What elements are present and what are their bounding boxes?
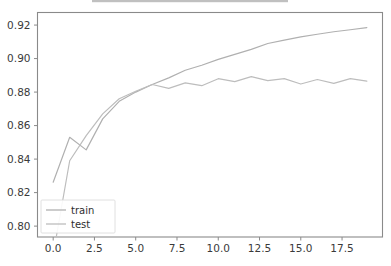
chart-canvas: 0.800.820.840.860.880.900.92 0.02.55.07.… bbox=[0, 0, 391, 266]
y-tick-label: 0.92 bbox=[7, 19, 30, 31]
figure-title-clipped bbox=[92, 0, 288, 2]
x-tick-label: 15.0 bbox=[289, 242, 312, 254]
x-tick-label: 17.5 bbox=[330, 242, 353, 254]
title-text-fragment bbox=[92, 0, 288, 2]
x-tick-label: 2.5 bbox=[86, 242, 103, 254]
x-tick-label: 10.0 bbox=[207, 242, 230, 254]
legend-label-test: test bbox=[71, 219, 90, 230]
x-tick-label: 7.5 bbox=[169, 242, 186, 254]
y-tick-label: 0.90 bbox=[7, 52, 30, 64]
chart-legend[interactable]: traintest bbox=[41, 200, 115, 233]
x-tick-label: 12.5 bbox=[248, 242, 271, 254]
x-tick-label: 5.0 bbox=[127, 242, 144, 254]
y-tick-label: 0.84 bbox=[7, 153, 31, 165]
y-tick-label: 0.82 bbox=[7, 186, 30, 198]
y-tick-label: 0.88 bbox=[7, 86, 30, 98]
y-tick-label: 0.80 bbox=[7, 220, 30, 232]
legend-label-train: train bbox=[71, 205, 94, 216]
matplotlib-figure: 0.800.820.840.860.880.900.92 0.02.55.07.… bbox=[0, 0, 391, 266]
y-tick-label: 0.86 bbox=[7, 119, 31, 131]
x-tick-label: 0.0 bbox=[45, 242, 62, 254]
